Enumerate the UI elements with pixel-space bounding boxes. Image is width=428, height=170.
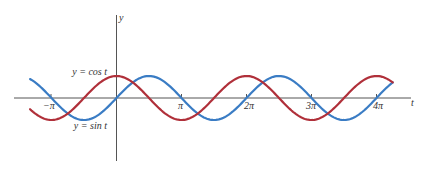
tick-label-4pi: 4π <box>373 100 384 111</box>
tick-label-neg-pi: −π <box>43 100 56 111</box>
y-axis-label: y <box>118 12 124 23</box>
tick-label-2pi: 2π <box>244 100 255 111</box>
t-axis-label: t <box>411 97 414 108</box>
cos-curve-label: y = cos t <box>71 66 107 77</box>
tick-label-pi: π <box>178 100 184 111</box>
sin-curve-label: y = sin t <box>73 120 107 131</box>
tick-label-3pi: 3π <box>305 100 317 111</box>
sin-cos-chart: y t −π π 2π 3π 4π y = cos t y = sin t <box>0 0 428 170</box>
